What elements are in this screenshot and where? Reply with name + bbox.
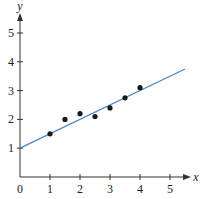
y-axis-label: y	[16, 0, 23, 13]
y-tick-label: 4	[8, 55, 14, 69]
y-tick-label: 3	[8, 84, 14, 98]
y-tick-label: 1	[8, 141, 14, 155]
x-tick-label: 2	[77, 182, 83, 196]
data-point	[107, 105, 112, 110]
scatter-chart: 01234512345xy	[0, 0, 200, 199]
x-tick-label: 4	[137, 182, 143, 196]
data-point	[122, 95, 127, 100]
fit-line	[20, 69, 185, 148]
data-point	[137, 85, 142, 90]
y-tick-label: 2	[8, 112, 14, 126]
data-point	[77, 111, 82, 116]
x-axis-label: x	[192, 170, 199, 184]
x-tick-label: 5	[167, 182, 173, 196]
x-axis-arrow-icon	[183, 174, 191, 180]
data-point	[47, 131, 52, 136]
x-tick-label: 1	[47, 182, 53, 196]
axis-labels: 01234512345xy	[8, 0, 199, 196]
x-tick-label: 3	[107, 182, 113, 196]
axes	[17, 13, 191, 180]
x-tick-label: 0	[17, 182, 23, 196]
y-tick-label: 5	[8, 26, 14, 40]
data-point	[92, 114, 97, 119]
data-point	[62, 117, 67, 122]
y-axis-arrow-icon	[17, 13, 23, 21]
fitted-line	[20, 69, 185, 148]
